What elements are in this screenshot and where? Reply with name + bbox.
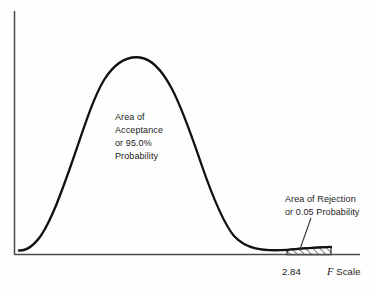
critical-value-tick-label: 2.84 [282, 265, 301, 278]
f-distribution-figure: Area of Acceptance or 95.0% Probability … [0, 0, 373, 294]
x-axis-label-text: Scale [334, 266, 361, 277]
acceptance-region-label: Area of Acceptance or 95.0% Probability [115, 111, 163, 163]
distribution-plot [0, 0, 373, 294]
x-axis-label: F Scale [327, 265, 361, 278]
distribution-curve [19, 57, 331, 250]
rejection-region-label: Area of Rejection or 0.05 Probability [285, 193, 359, 219]
rejection-leader-line [300, 218, 312, 251]
